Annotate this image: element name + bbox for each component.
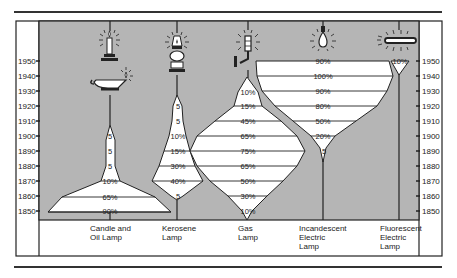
svg-text:50%: 50%	[240, 177, 255, 186]
svg-text:5: 5	[176, 192, 180, 201]
svg-text:1860: 1860	[422, 192, 440, 201]
svg-text:10%: 10%	[170, 132, 185, 141]
category-label-gas-lamp: GasLamp	[238, 224, 258, 242]
svg-text:1870: 1870	[18, 177, 36, 186]
svg-text:10%: 10%	[240, 88, 255, 97]
svg-text:1850: 1850	[18, 207, 36, 216]
svg-text:1940: 1940	[422, 72, 440, 81]
svg-text:90%: 90%	[315, 87, 330, 96]
svg-text:10%: 10%	[102, 177, 117, 186]
svg-text:1910: 1910	[422, 117, 440, 126]
svg-text:1950: 1950	[422, 57, 440, 66]
category-label-candle-oil-lamp: Candle andOil Lamp	[90, 224, 131, 242]
svg-text:45%: 45%	[240, 117, 255, 126]
svg-text:65%: 65%	[102, 193, 117, 202]
svg-text:1950: 1950	[18, 57, 36, 66]
svg-text:20%: 20%	[315, 132, 330, 141]
svg-text:65%: 65%	[240, 162, 255, 171]
svg-text:5: 5	[108, 162, 112, 171]
svg-text:1920: 1920	[422, 102, 440, 111]
category-label-kerosene-lamp: KeroseneLamp	[162, 224, 196, 242]
svg-text:75%: 75%	[240, 147, 255, 156]
svg-text:5: 5	[176, 117, 180, 126]
svg-text:65%: 65%	[240, 132, 255, 141]
svg-text:90%: 90%	[315, 57, 330, 66]
svg-text:1930: 1930	[18, 87, 36, 96]
svg-text:1900: 1900	[18, 132, 36, 141]
svg-text:40%: 40%	[170, 177, 185, 186]
svg-text:1880: 1880	[422, 162, 440, 171]
svg-text:15%: 15%	[170, 147, 185, 156]
category-label-incandescent-lamp: IncandescentElectricLamp	[299, 224, 347, 251]
svg-text:30%: 30%	[240, 192, 255, 201]
svg-text:80%: 80%	[315, 102, 330, 111]
svg-text:5: 5	[108, 147, 112, 156]
svg-text:100%: 100%	[313, 72, 333, 81]
svg-text:1870: 1870	[422, 177, 440, 186]
svg-text:10%: 10%	[240, 207, 255, 216]
svg-text:15%: 15%	[240, 102, 255, 111]
svg-text:90%: 90%	[102, 207, 117, 216]
svg-text:50%: 50%	[315, 117, 330, 126]
svg-text:1930: 1930	[422, 87, 440, 96]
svg-text:1880: 1880	[18, 162, 36, 171]
svg-text:1920: 1920	[18, 102, 36, 111]
svg-text:1860: 1860	[18, 192, 36, 201]
svg-text:1910: 1910	[18, 117, 36, 126]
svg-text:10%: 10%	[392, 57, 407, 66]
svg-text:1940: 1940	[18, 72, 36, 81]
svg-text:5: 5	[108, 132, 112, 141]
svg-text:5: 5	[176, 102, 180, 111]
svg-text:1850: 1850	[422, 207, 440, 216]
svg-text:5: 5	[322, 147, 326, 156]
svg-text:1900: 1900	[422, 132, 440, 141]
svg-text:1890: 1890	[422, 147, 440, 156]
svg-text:1890: 1890	[18, 147, 36, 156]
category-label-fluorescent-lamp: FluorescentElectricLamp	[380, 224, 422, 251]
svg-text:30%: 30%	[170, 162, 185, 171]
